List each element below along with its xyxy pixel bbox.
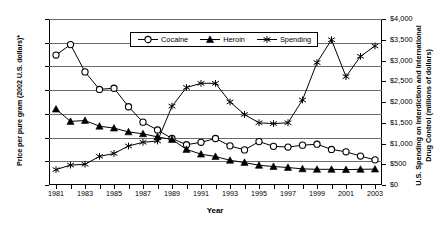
data-point-open-circle: [111, 85, 117, 91]
x-axis-tick-label: 1989: [157, 189, 187, 198]
y-axis-left-tick-mark: [45, 185, 49, 186]
data-point-open-circle: [145, 36, 151, 42]
data-point-open-circle: [82, 69, 88, 75]
open-circle-icon: [137, 35, 159, 44]
y-axis-right-tick-mark: [382, 61, 386, 62]
y-axis-right-tick-mark: [382, 102, 386, 103]
y-axis-left-tick-mark: [45, 114, 49, 115]
x-axis-tick-label: 1991: [186, 189, 216, 198]
y-axis-right-tick-mark: [382, 81, 386, 82]
data-point-open-circle: [285, 144, 291, 150]
data-point-open-circle: [241, 147, 247, 153]
data-point-asterisk: [111, 150, 118, 157]
x-axis-tick-label: 1985: [99, 189, 129, 198]
x-axis-tick-label: 1987: [128, 189, 158, 198]
y-axis-right-tick-mark: [382, 164, 386, 165]
data-point-open-circle: [270, 143, 276, 149]
y-axis-left-tick-mark: [45, 90, 49, 91]
x-axis-title: Year: [0, 206, 430, 215]
data-point-open-circle: [67, 42, 73, 48]
series-cocaine: [53, 42, 378, 163]
data-point-open-circle: [140, 119, 146, 125]
data-point-filled-triangle: [96, 123, 103, 130]
x-axis-tick-label: 1993: [215, 189, 245, 198]
data-point-open-circle: [314, 141, 320, 147]
y-axis-left-tick-mark: [45, 138, 49, 139]
y-axis-right-tick-label: $1,000: [390, 140, 432, 148]
legend-item-cocaine: Cocaine: [137, 35, 188, 44]
y-axis-right-tick-label: $1,500: [390, 119, 432, 127]
x-axis-tick-label: 1997: [273, 189, 303, 198]
y-axis-right-tick-label: $4,000: [390, 15, 432, 23]
legend-item-label: Heroin: [223, 35, 245, 44]
filled-triangle-icon: [199, 35, 221, 44]
data-point-open-circle: [227, 143, 233, 149]
legend-item-heroin: Heroin: [199, 35, 245, 44]
y-axis-right-tick-mark: [382, 123, 386, 124]
x-axis-tick-label: 2001: [331, 189, 361, 198]
legend-item-label: Spending: [280, 35, 311, 44]
data-point-open-circle: [256, 139, 262, 145]
data-point-open-circle: [154, 127, 160, 133]
y-axis-right-tick-label: $0: [390, 181, 432, 189]
y-axis-right-tick-mark: [382, 144, 386, 145]
data-point-asterisk: [125, 143, 132, 150]
y-axis-left-tick-mark: [45, 66, 49, 67]
data-point-asterisk: [53, 166, 60, 173]
y-axis-right-tick-label: $2,500: [390, 77, 432, 85]
data-point-open-circle: [198, 139, 204, 145]
data-point-open-circle: [125, 104, 131, 110]
x-axis-tick-label: 1983: [70, 189, 100, 198]
data-point-filled-triangle: [52, 106, 59, 113]
data-point-open-circle: [328, 146, 334, 152]
y-axis-right-tick-label: $3,000: [390, 57, 432, 65]
x-axis-tick-label: 1999: [302, 189, 332, 198]
data-point-open-circle: [53, 52, 59, 58]
data-point-open-circle: [96, 86, 102, 92]
x-axis-tick-label: 2003: [360, 189, 390, 198]
data-point-asterisk: [343, 73, 350, 80]
legend-item-spending: Spending: [256, 35, 311, 44]
x-axis-tick-label: 1981: [41, 189, 71, 198]
y-axis-right-tick-mark: [382, 185, 386, 186]
y-axis-right-tick-label: $500: [390, 160, 432, 168]
data-point-open-circle: [372, 157, 378, 163]
drug-price-spending-chart: Price per pure gram (2002 U.S. dollars)*…: [0, 0, 448, 226]
y-axis-left-title: Price per pure gram (2002 U.S. dollars)*: [15, 16, 24, 186]
asterisk-icon: [256, 35, 278, 44]
y-axis-right-tick-mark: [382, 40, 386, 41]
y-axis-right-tick-mark: [382, 19, 386, 20]
data-point-asterisk: [372, 43, 379, 50]
y-axis-right-tick-label: $3,500: [390, 36, 432, 44]
y-axis-left-tick-mark: [45, 161, 49, 162]
data-point-asterisk: [328, 36, 335, 43]
chart-legend: CocaineHeroinSpending: [130, 32, 318, 47]
data-point-asterisk: [299, 97, 306, 104]
y-axis-left-tick-mark: [45, 43, 49, 44]
data-point-asterisk: [357, 53, 364, 60]
data-point-open-circle: [212, 135, 218, 141]
legend-item-label: Cocaine: [161, 35, 188, 44]
data-point-open-circle: [343, 149, 349, 155]
y-axis-right-tick-label: $2,000: [390, 98, 432, 106]
data-point-open-circle: [299, 142, 305, 148]
y-axis-left-tick-mark: [45, 19, 49, 20]
data-point-asterisk: [314, 59, 321, 66]
x-axis-tick-label: 1995: [244, 189, 274, 198]
data-point-open-circle: [357, 153, 363, 159]
